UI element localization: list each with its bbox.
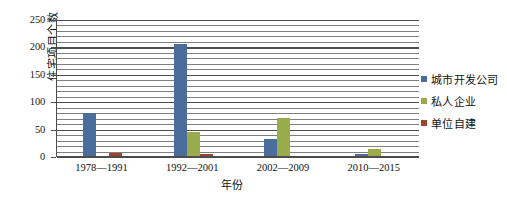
y-tick-label: 150: [5, 70, 45, 80]
bar[interactable]: [277, 118, 290, 157]
legend-label: 私人企业: [431, 93, 476, 109]
y-tick-mark: [51, 75, 56, 76]
bar-group: [239, 20, 330, 157]
y-tick-mark: [51, 130, 56, 131]
bar-group: [148, 20, 239, 157]
bar[interactable]: [83, 113, 96, 157]
bar[interactable]: [264, 139, 277, 157]
legend-swatch-icon: [421, 120, 427, 126]
y-tick-mark: [51, 157, 56, 158]
x-axis-baseline: [57, 156, 419, 157]
bar-group: [329, 20, 420, 157]
plot-area: [56, 20, 419, 157]
y-tick-label: 0: [5, 152, 45, 162]
legend-item[interactable]: 城市开发公司: [421, 68, 507, 90]
y-tick-label: 250: [5, 15, 45, 25]
gridline-major: [57, 157, 419, 158]
x-tick-label: 2002—2009: [233, 162, 333, 173]
legend-label: 单位自建: [431, 115, 476, 131]
x-tick-label: 1978—1991: [51, 162, 151, 173]
bar[interactable]: [187, 132, 200, 157]
chart-legend: 城市开发公司私人企业单位自建: [421, 68, 507, 134]
legend-swatch-icon: [421, 76, 427, 82]
y-tick-mark: [51, 47, 56, 48]
x-tick-label: 1992—2001: [142, 162, 242, 173]
y-tick-label: 200: [5, 42, 45, 52]
y-tick-mark: [51, 102, 56, 103]
y-tick-label: 50: [5, 125, 45, 135]
legend-item[interactable]: 私人企业: [421, 90, 507, 112]
legend-item[interactable]: 单位自建: [421, 112, 507, 134]
legend-swatch-icon: [421, 98, 427, 104]
y-tick-label: 100: [5, 97, 45, 107]
bar-group: [57, 20, 148, 157]
x-tick-label: 2010—2015: [324, 162, 424, 173]
y-tick-mark: [51, 20, 56, 21]
bar[interactable]: [174, 44, 187, 157]
x-axis-label: 年份: [192, 176, 272, 192]
chart-screenshot: 住宅项目个数 1978—19911992—20012002—20092010—2…: [0, 0, 507, 201]
legend-label: 城市开发公司: [431, 71, 499, 87]
